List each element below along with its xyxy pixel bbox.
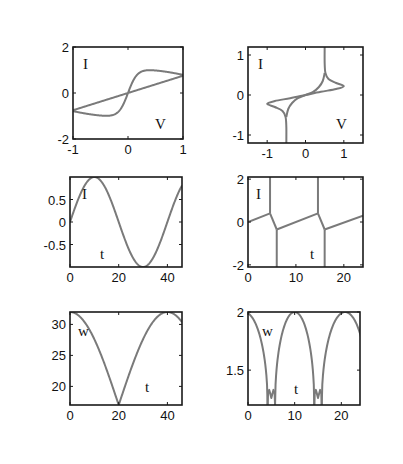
y-tick-label: 2 bbox=[237, 305, 244, 320]
y-tick-label: 0 bbox=[59, 215, 66, 230]
x-tick-label: 40 bbox=[160, 408, 174, 423]
y-axis-label: I bbox=[256, 186, 261, 202]
y-tick-label: 2 bbox=[62, 40, 69, 55]
curve-arch bbox=[322, 312, 369, 405]
curve-loop bbox=[73, 70, 183, 116]
y-tick-label: 25 bbox=[52, 348, 66, 363]
panel-iv-hysteresis: -101-101IV bbox=[232, 47, 363, 161]
y-tick-label: -0.5 bbox=[44, 238, 66, 253]
x-axis-label: t bbox=[294, 381, 299, 397]
x-axis-label: t bbox=[145, 379, 150, 395]
x-tick-label: 0 bbox=[302, 146, 309, 161]
panel-freq-arches: 010201.52wt bbox=[221, 305, 368, 423]
curve-dip bbox=[314, 390, 321, 405]
x-tick-label: 0 bbox=[124, 142, 131, 157]
x-tick-label: 0 bbox=[244, 270, 251, 285]
y-tick-label: -2 bbox=[232, 258, 244, 273]
curve-segment bbox=[270, 213, 277, 229]
x-axis-label: V bbox=[155, 116, 166, 132]
y-tick-label: 30 bbox=[52, 317, 66, 332]
y-axis-label: I bbox=[83, 56, 88, 72]
x-tick-label: 0 bbox=[244, 408, 251, 423]
y-tick-label: 20 bbox=[52, 379, 66, 394]
x-tick-label: 20 bbox=[111, 408, 125, 423]
curve-segment bbox=[248, 213, 270, 222]
x-tick-label: 20 bbox=[334, 408, 348, 423]
x-tick-label: 20 bbox=[111, 270, 125, 285]
x-tick-label: -1 bbox=[261, 146, 273, 161]
y-axis-label: I bbox=[82, 186, 87, 202]
curve-inner bbox=[286, 73, 324, 117]
panel-current-sine: 02040-0.500.5It bbox=[44, 177, 182, 285]
curve-arch bbox=[221, 312, 268, 405]
x-axis-label: V bbox=[336, 116, 347, 132]
y-axis-label: w bbox=[78, 323, 89, 339]
y-axis-label: w bbox=[262, 323, 273, 339]
x-tick-label: 1 bbox=[179, 142, 186, 157]
x-tick-label: 0 bbox=[66, 270, 73, 285]
y-tick-label: 1.5 bbox=[226, 363, 244, 378]
y-tick-label: -2 bbox=[57, 132, 69, 147]
panel-iv-sigmoid: -101-202IV bbox=[57, 40, 186, 157]
curve-segment bbox=[325, 216, 363, 230]
y-tick-label: 0 bbox=[62, 86, 69, 101]
y-tick-label: 0.5 bbox=[48, 193, 66, 208]
y-tick-label: -1 bbox=[232, 128, 244, 143]
x-tick-label: 10 bbox=[289, 270, 303, 285]
x-tick-label: 40 bbox=[160, 270, 174, 285]
y-tick-label: 0 bbox=[237, 88, 244, 103]
x-tick-label: 0 bbox=[66, 408, 73, 423]
x-tick-label: 10 bbox=[287, 408, 301, 423]
x-axis-label: t bbox=[310, 246, 315, 262]
panel-current-jumps: 01020-202It bbox=[232, 172, 363, 285]
x-axis-label: t bbox=[100, 246, 105, 262]
x-tick-label: 1 bbox=[340, 146, 347, 161]
curve-segment bbox=[318, 213, 325, 229]
y-axis-label: I bbox=[258, 56, 263, 72]
panel-freq-abs-cos: 02040202530wt bbox=[52, 312, 182, 423]
x-tick-label: 20 bbox=[337, 270, 351, 285]
y-tick-label: 1 bbox=[237, 48, 244, 63]
curve-segment bbox=[277, 213, 318, 229]
y-tick-label: 0 bbox=[237, 215, 244, 230]
y-tick-label: 2 bbox=[237, 172, 244, 187]
figure: -101-202IV-101-101IV02040-0.500.5It01020… bbox=[0, 0, 403, 464]
curve-dip bbox=[268, 390, 275, 405]
